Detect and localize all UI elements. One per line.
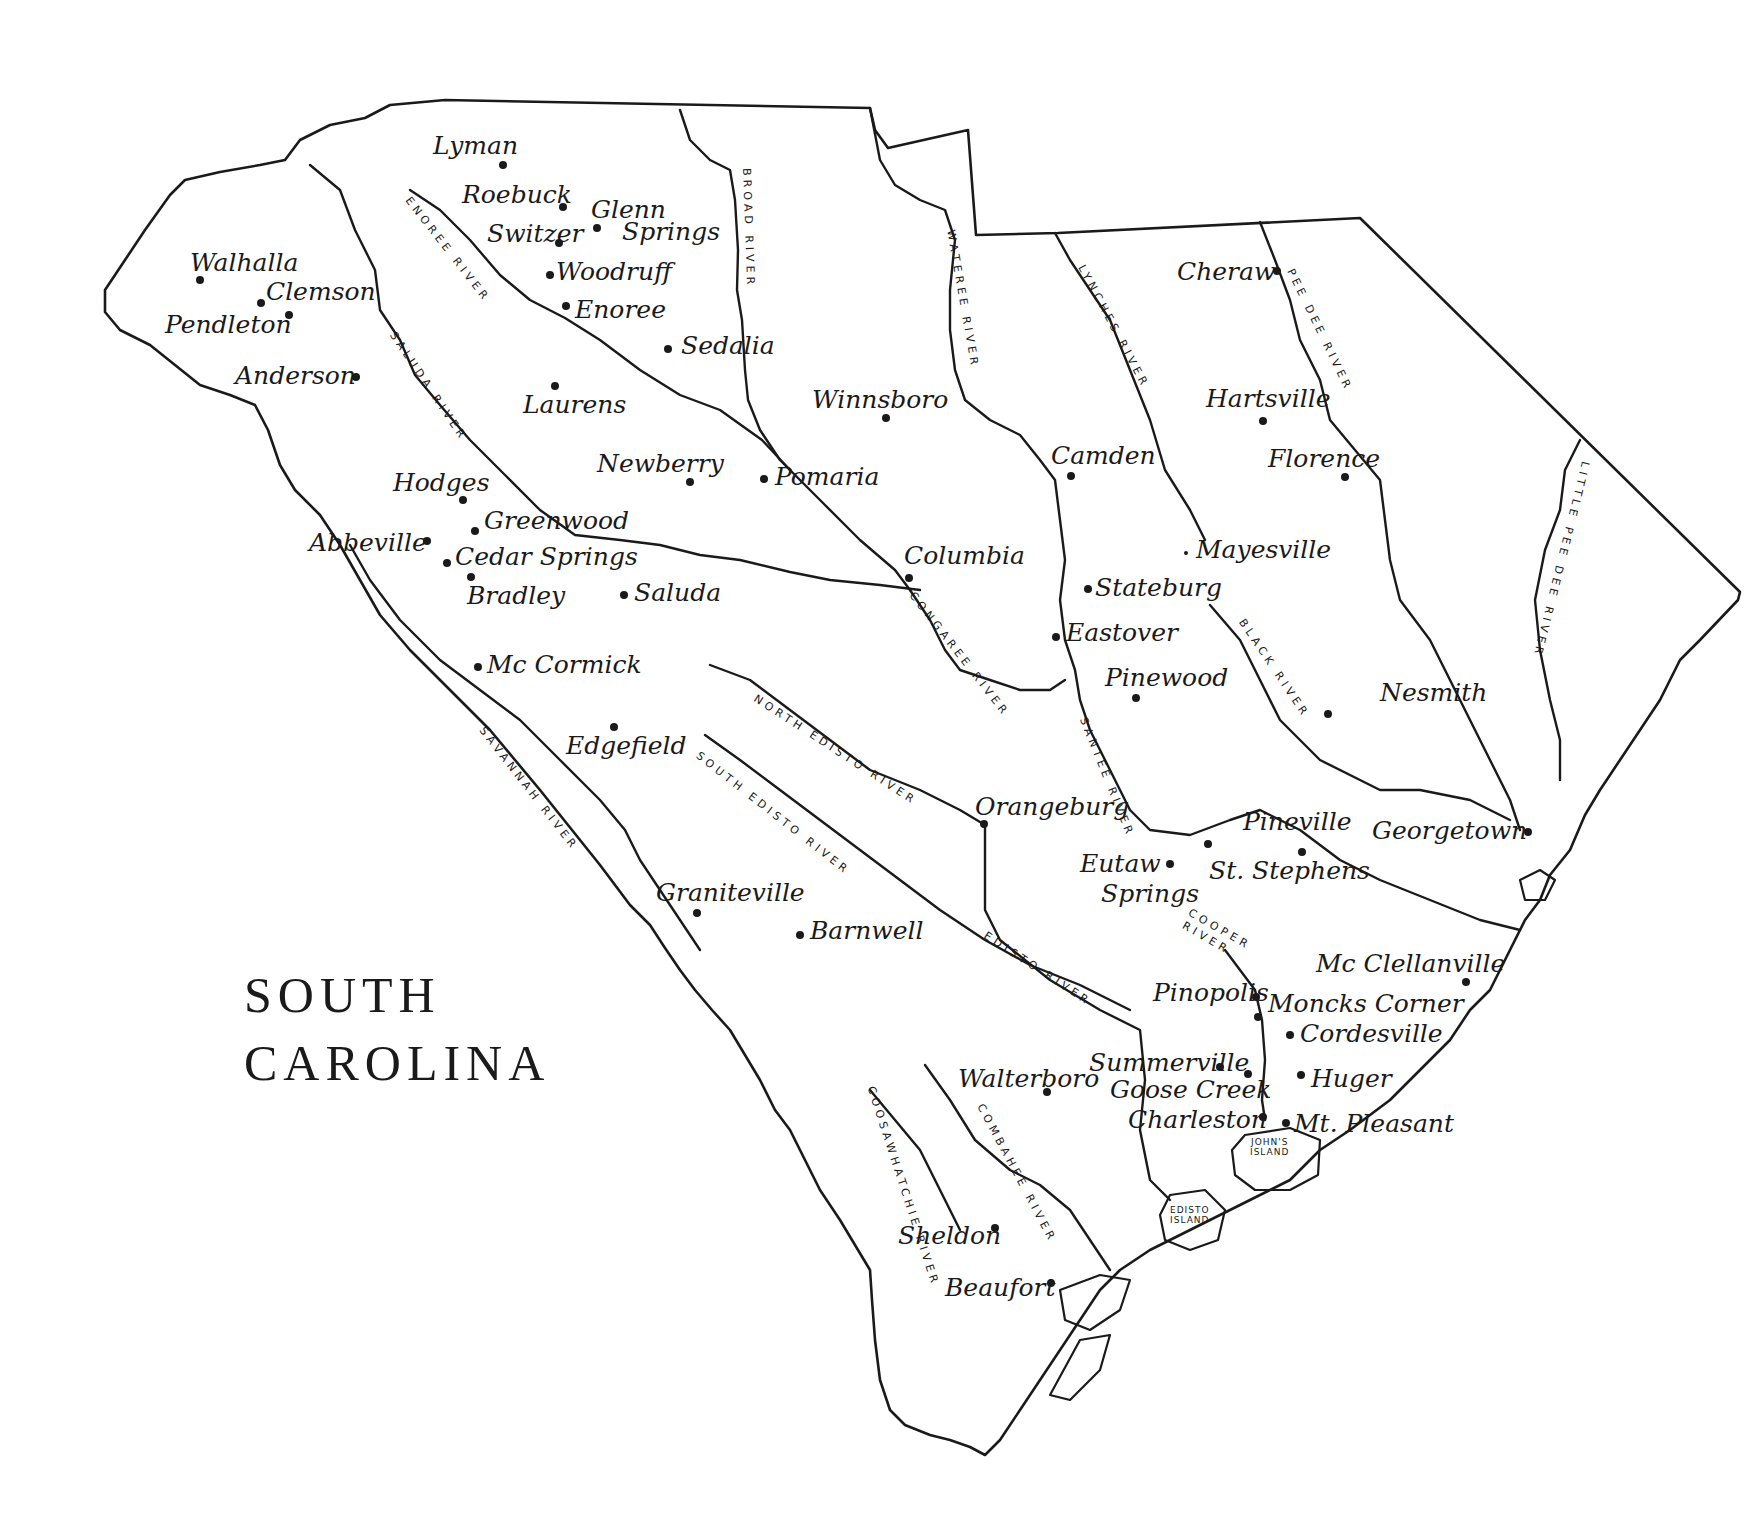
city-marker-pineville [1204,840,1212,848]
city-label-mc-cormick: Mc Cormick [487,652,642,677]
city-label-enoree: Enoree [575,297,666,322]
city-label-walterboro: Walterboro [958,1066,1099,1091]
city-label-goose-creek: Goose Creek [1110,1077,1271,1102]
city-label-mc-clellanville: Mc Clellanville [1316,951,1505,976]
city-marker-hodges [459,496,467,504]
city-label-sedalia: Sedalia [681,333,775,358]
city-label-pineville: Pineville [1243,809,1352,834]
city-marker-walhalla [196,276,204,284]
city-marker-columbia [905,574,913,582]
city-label-florence: Florence [1268,446,1380,471]
city-label-cordesville: Cordesville [1300,1021,1443,1046]
city-marker-laurens [551,382,559,390]
state-title-line-1: SOUTH [244,962,550,1030]
city-marker-pinewood [1132,694,1140,702]
city-label-greenwood: Greenwood [484,508,629,533]
city-label-stateburg: Stateburg [1095,575,1222,600]
city-label-st-stephens: St. Stephens [1209,858,1370,883]
city-label-beaufort: Beaufort [945,1275,1055,1300]
city-marker-graniteville [693,909,701,917]
city-label-laurens: Laurens [523,392,626,417]
city-label-pomaria: Pomaria [775,464,879,489]
south-carolina-map: SOUTH CAROLINA LymanRoebuckSwitzerGlennS… [0,0,1763,1525]
city-marker-mc-cormick [474,663,482,671]
city-label-mt-pleasant: Mt. Pleasant [1294,1111,1454,1136]
city-label-pinopolis: Pinopolis [1153,980,1269,1005]
city-marker-enoree [562,302,570,310]
city-marker-mayesville [1184,551,1188,555]
city-marker-huger [1297,1071,1305,1079]
city-marker-newberry [686,478,694,486]
city-marker-glenn-springs [593,224,601,232]
south-edisto-river-line [705,735,1130,1010]
enoree-river-line [410,190,790,470]
city-label-woodruff: Woodruff [556,259,672,284]
city-marker-hartsville [1259,417,1267,425]
city-marker-woodruff [546,271,554,279]
city-label-glenn-springs-line-2: Springs [622,219,720,244]
city-label-pinewood: Pinewood [1105,665,1228,690]
city-marker-nesmith [1324,710,1332,718]
state-title: SOUTH CAROLINA [244,962,550,1097]
map-linework [0,0,1763,1525]
city-label-cheraw: Cheraw [1177,259,1275,284]
city-label-clemson: Clemson [266,279,376,304]
city-label-charleston: Charleston [1128,1107,1267,1132]
city-label-newberry: Newberry [597,451,724,476]
city-marker-barnwell [796,931,804,939]
city-marker-st-stephens [1298,848,1306,856]
city-label-cedar-springs: Cedar Springs [455,544,638,569]
city-label-columbia: Columbia [904,543,1025,568]
city-marker-orangeburg [980,820,988,828]
city-marker-cedar-springs [443,559,451,567]
city-label-camden: Camden [1051,443,1156,468]
beaufort-sea-islands [1050,1275,1130,1400]
city-label-graniteville: Graniteville [656,880,805,905]
state-title-line-2: CAROLINA [244,1030,550,1098]
city-label-orangeburg: Orangeburg [975,794,1129,819]
city-label-eastover: Eastover [1066,620,1178,645]
city-marker-pomaria [760,475,768,483]
city-label-hodges: Hodges [393,470,489,495]
city-marker-sedalia [664,345,672,353]
city-label-hartsville: Hartsville [1206,386,1330,411]
city-label-eutaw-springs: Eutaw [1080,851,1161,876]
city-marker-florence [1341,473,1349,481]
city-marker-clemson [257,299,265,307]
city-marker-cordesville [1286,1031,1294,1039]
island-label-edisto-island: EDISTOISLAND [1170,1206,1210,1226]
city-label-abbeville: Abbeville [309,530,427,555]
city-label-anderson: Anderson [235,363,356,388]
city-label-roebuck: Roebuck [462,182,572,207]
city-label-barnwell: Barnwell [810,918,924,943]
city-marker-moncks-corner [1254,1013,1262,1021]
city-marker-lyman [499,161,507,169]
city-label-pendleton: Pendleton [165,312,292,337]
city-marker-stateburg [1084,585,1092,593]
city-label-winnsboro: Winnsboro [812,387,948,412]
city-marker-eastover [1052,633,1060,641]
city-label-moncks-corner: Moncks Corner [1268,991,1464,1016]
city-marker-mc-clellanville [1462,978,1470,986]
city-marker-winnsboro [882,414,890,422]
city-marker-mt-pleasant [1282,1119,1290,1127]
city-label-edgefield: Edgefield [566,733,687,758]
city-label-mayesville: Mayesville [1196,537,1331,562]
city-marker-bradley [467,573,475,581]
city-label-walhalla: Walhalla [190,250,298,275]
congaree-river-line [910,590,1065,690]
island-label-line-2: ISLAND [1170,1216,1210,1226]
city-label-huger: Huger [1311,1066,1392,1091]
city-label-lyman: Lyman [433,133,518,158]
city-marker-greenwood [471,527,479,535]
city-label-nesmith: Nesmith [1380,680,1487,705]
city-label-summerville: Summerville [1089,1050,1249,1075]
city-label-saluda: Saluda [634,580,721,605]
island-label-john-s-island: JOHN'SISLAND [1250,1138,1289,1158]
city-label-eutaw-springs-line-2: Springs [1101,881,1199,906]
city-marker-camden [1067,472,1075,480]
city-label-bradley: Bradley [467,583,565,608]
city-marker-saluda [620,591,628,599]
city-marker-edgefield [610,723,618,731]
island-label-line-2: ISLAND [1250,1148,1289,1158]
